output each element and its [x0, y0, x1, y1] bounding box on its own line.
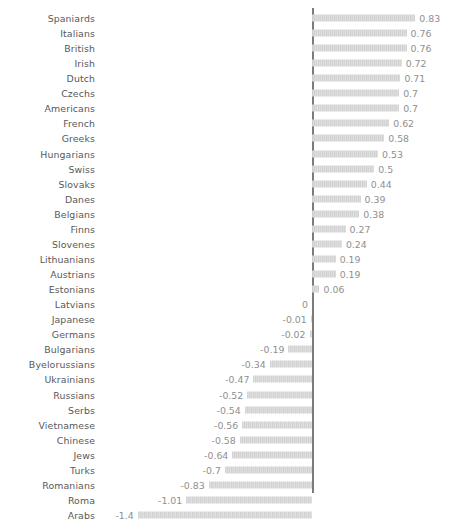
- value-label-romanians: -0.83: [180, 479, 204, 490]
- value-label-germans: -0.02: [281, 329, 305, 340]
- value-label-irish: 0.72: [406, 58, 427, 69]
- category-label-jews: Jews: [0, 449, 95, 460]
- bar-hungarians: [312, 150, 378, 157]
- category-label-roma: Roma: [0, 494, 95, 505]
- bar-row: Hungarians0.53: [0, 146, 451, 161]
- bar-ukrainians: [253, 376, 312, 383]
- value-label-americans: 0.7: [403, 103, 418, 114]
- category-label-latvians: Latvians: [0, 299, 95, 310]
- category-label-chinese: Chinese: [0, 434, 95, 445]
- value-label-danes: 0.39: [365, 193, 386, 204]
- bar-vietnamese: [242, 421, 312, 428]
- bar-row: Germans-0.02: [0, 327, 451, 342]
- value-label-italians: 0.76: [411, 28, 432, 39]
- category-label-dutch: Dutch: [0, 73, 95, 84]
- bar-row: Czechs0.7: [0, 86, 451, 101]
- bar-row: Spaniards0.83: [0, 11, 451, 26]
- category-label-finns: Finns: [0, 223, 95, 234]
- category-label-russians: Russians: [0, 389, 95, 400]
- bar-row: Swiss0.5: [0, 161, 451, 176]
- category-label-estonians: Estonians: [0, 284, 95, 295]
- value-label-slovenes: 0.24: [346, 238, 367, 249]
- bar-japanese: [311, 316, 312, 323]
- value-label-spaniards: 0.83: [419, 13, 440, 24]
- bar-row: Slovenes0.24: [0, 236, 451, 251]
- category-label-germans: Germans: [0, 329, 95, 340]
- bar-dutch: [312, 75, 400, 82]
- value-label-greeks: 0.58: [388, 133, 409, 144]
- category-label-serbs: Serbs: [0, 404, 95, 415]
- bar-finns: [312, 225, 346, 232]
- value-label-belgians: 0.38: [363, 208, 384, 219]
- bar-czechs: [312, 90, 399, 97]
- bar-row: Irish0.72: [0, 56, 451, 71]
- category-label-japanese: Japanese: [0, 314, 95, 325]
- bar-row: Russians-0.52: [0, 387, 451, 402]
- bar-greeks: [312, 135, 384, 142]
- category-label-swiss: Swiss: [0, 163, 95, 174]
- bar-row: Dutch0.71: [0, 71, 451, 86]
- bar-row: French0.62: [0, 116, 451, 131]
- bar-germans: [310, 331, 312, 338]
- bar-spaniards: [312, 15, 415, 22]
- bar-row: Chinese-0.58: [0, 432, 451, 447]
- value-label-estonians: 0.06: [323, 284, 344, 295]
- bar-row: Japanese-0.01: [0, 312, 451, 327]
- bar-americans: [312, 105, 399, 112]
- category-label-lithuanians: Lithuanians: [0, 253, 95, 264]
- value-label-roma: -1.01: [158, 494, 182, 505]
- value-label-czechs: 0.7: [403, 88, 418, 99]
- bar-row: Danes0.39: [0, 191, 451, 206]
- category-label-turks: Turks: [0, 464, 95, 475]
- bar-row: Serbs-0.54: [0, 402, 451, 417]
- bar-estonians: [312, 286, 319, 293]
- category-label-arabs: Arabs: [0, 509, 95, 520]
- bar-row: Americans0.7: [0, 101, 451, 116]
- bar-row: Jews-0.64: [0, 447, 451, 462]
- bar-romanians: [209, 481, 312, 488]
- bar-row: Arabs-1.4: [0, 507, 451, 522]
- value-label-lithuanians: 0.19: [340, 253, 361, 264]
- bar-row: Finns0.27: [0, 221, 451, 236]
- category-label-americans: Americans: [0, 103, 95, 114]
- value-label-latvians: 0: [302, 299, 308, 310]
- bar-danes: [312, 195, 361, 202]
- bar-bulgarians: [288, 346, 312, 353]
- bar-row: Bulgarians-0.19: [0, 342, 451, 357]
- category-label-hungarians: Hungarians: [0, 148, 95, 159]
- value-label-british: 0.76: [411, 43, 432, 54]
- category-label-danes: Danes: [0, 193, 95, 204]
- bar-row: Byelorussians-0.34: [0, 357, 451, 372]
- bar-row: Roma-1.01: [0, 492, 451, 507]
- category-label-slovaks: Slovaks: [0, 178, 95, 189]
- value-label-russians: -0.52: [219, 389, 243, 400]
- bar-row: Greeks0.58: [0, 131, 451, 146]
- value-label-hungarians: 0.53: [382, 148, 403, 159]
- value-label-byelorussians: -0.34: [241, 359, 265, 370]
- category-label-slovenes: Slovenes: [0, 238, 95, 249]
- value-label-serbs: -0.54: [217, 404, 241, 415]
- bar-slovenes: [312, 240, 342, 247]
- bar-slovaks: [312, 180, 367, 187]
- bar-row: Austrians0.19: [0, 267, 451, 282]
- category-label-ukrainians: Ukrainians: [0, 374, 95, 385]
- bar-row: Vietnamese-0.56: [0, 417, 451, 432]
- value-label-chinese: -0.58: [212, 434, 236, 445]
- category-label-vietnamese: Vietnamese: [0, 419, 95, 430]
- bar-row: Romanians-0.83: [0, 477, 451, 492]
- category-label-bulgarians: Bulgarians: [0, 344, 95, 355]
- bar-british: [312, 45, 407, 52]
- bar-austrians: [312, 271, 336, 278]
- bar-row: Lithuanians0.19: [0, 251, 451, 266]
- category-label-czechs: Czechs: [0, 88, 95, 99]
- category-label-byelorussians: Byelorussians: [0, 359, 95, 370]
- bar-arabs: [138, 511, 312, 518]
- value-label-bulgarians: -0.19: [260, 344, 284, 355]
- value-label-slovaks: 0.44: [371, 178, 392, 189]
- bar-row: Belgians0.38: [0, 206, 451, 221]
- bar-belgians: [312, 210, 359, 217]
- bar-lithuanians: [312, 255, 336, 262]
- category-label-spaniards: Spaniards: [0, 13, 95, 24]
- bar-row: Slovaks0.44: [0, 176, 451, 191]
